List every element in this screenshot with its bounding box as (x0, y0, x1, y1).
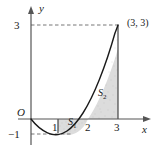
x-axis-label: x (142, 124, 147, 135)
origin-label: O (17, 107, 25, 118)
region-s1-subscript: 1 (73, 122, 77, 130)
x-axis-tick-label-3: 3 (114, 122, 120, 133)
figure-container: 3 −1 O 1 2 3 x y S1 S2 (3, 3) (0, 0, 163, 153)
x-axis-tick-label-1: 1 (52, 122, 58, 133)
y-axis-label: y (39, 3, 44, 14)
x-axis-arrowhead (143, 116, 151, 122)
region-label-s1: S1 (68, 117, 77, 130)
y-axis-tick-label-negative-1: −1 (8, 129, 20, 140)
y-axis-tick-label-3: 3 (14, 20, 20, 31)
region-s2-subscript: 2 (103, 93, 107, 101)
x-axis-tick-label-2: 2 (85, 122, 91, 133)
region-label-s2: S2 (98, 88, 107, 101)
point-annotation-3-3: (3, 3) (127, 18, 149, 28)
y-axis-arrowhead (28, 6, 34, 14)
